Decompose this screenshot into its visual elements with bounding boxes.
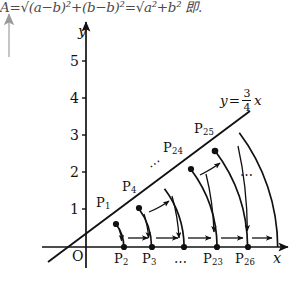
label-P4-sub: 4 [131,185,136,195]
label-P24: P24 [163,141,183,155]
label-P3-base: P [142,251,151,266]
line-equation-label: y = 3 4 x [220,88,262,113]
label-P26-base: P [235,251,244,266]
arc-arrow-3 [172,196,179,238]
arc-2 [139,208,152,247]
label-P24-sub: 24 [172,146,183,156]
point-P1 [113,221,119,227]
origin-label: O [72,249,83,263]
point-P2 [121,244,127,250]
y-tick-label-4: 4 [70,91,79,105]
y-tick-label-5: 5 [70,54,79,68]
label-P3-sub: 3 [151,257,156,267]
y-tick-label-3: 3 [70,128,79,142]
point-P4 [136,205,142,211]
equation-x: x [254,94,262,108]
label-P2: P2 [114,252,128,266]
label-P23: P23 [203,252,223,266]
line-arrow-1 [149,201,169,212]
equation-denominator: 4 [242,102,251,113]
equation-numerator: 3 [242,88,251,99]
label-P23-base: P [203,251,212,266]
x-axis-label: x [273,251,281,266]
label-P1: P1 [96,196,110,210]
label-P1-sub: 1 [105,201,110,211]
equation-equals: = [229,94,240,108]
y-tick-label-2: 2 [70,165,79,179]
label-P1-base: P [96,195,105,210]
equation-y: y [220,94,228,108]
arc-5 [215,151,247,247]
y-axis-label: y [78,24,86,39]
arc-arrow-1 [119,229,122,241]
equation-fraction: 3 4 [242,88,251,113]
label-P2-sub: 2 [123,257,128,267]
point-P23 [214,244,220,250]
label-P26: P26 [235,252,255,266]
point-P-mid [181,244,187,250]
arc-arrow-5 [238,146,247,231]
y-tick-label-1: 1 [70,202,79,216]
arc-1 [116,224,124,247]
label-P4-base: P [122,179,131,194]
ellipsis-right: ⋯ [240,168,254,181]
label-P3: P3 [142,252,156,266]
point-P25 [212,148,219,155]
label-P2-base: P [114,251,123,266]
label-P25-sub: 25 [203,127,214,137]
label-P24-base: P [163,140,172,155]
point-P24 [188,166,194,172]
ellipsis-on-axis: ⋯ [174,255,188,268]
point-P3 [149,244,155,250]
point-P26 [245,244,251,250]
math-figure: A=√(a−b)²+(b−b)²=√a²+b² 即. [0,0,301,303]
label-P25-base: P [194,121,203,136]
label-P23-sub: 23 [212,257,223,267]
line-arrow-2 [200,163,220,175]
label-P26-sub: 26 [244,257,255,267]
motion-arrows [119,146,272,241]
arc-4 [191,169,217,247]
label-P4: P4 [122,180,136,194]
label-P25: P25 [194,122,214,136]
